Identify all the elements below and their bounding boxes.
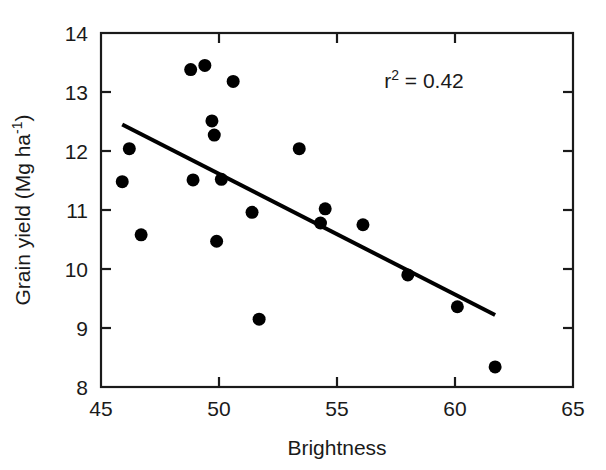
data-point [314, 216, 327, 229]
x-tick-label: 45 [89, 397, 112, 420]
data-point [227, 75, 240, 88]
data-point [187, 173, 200, 186]
x-tick-label: 65 [561, 397, 584, 420]
data-point [293, 142, 306, 155]
y-tick-labels: 891011121314 [65, 22, 89, 399]
data-point [116, 175, 129, 188]
y-tick-label: 13 [65, 81, 88, 104]
y-tick-label: 12 [65, 140, 88, 163]
x-axis-title: Brightness [287, 436, 386, 459]
y-tick-label: 9 [76, 317, 88, 340]
data-point [253, 313, 266, 326]
data-point [319, 202, 332, 215]
y-tick-label: 14 [65, 22, 89, 45]
data-point [210, 235, 223, 248]
data-point [489, 360, 502, 373]
data-point [205, 114, 218, 127]
data-point [208, 129, 221, 142]
y-axis-title: Grain yield (Mg ha-1) [9, 114, 34, 305]
data-point [246, 206, 259, 219]
x-tick-label: 50 [207, 397, 230, 420]
y-tick-label: 11 [66, 199, 88, 222]
x-tick-labels: 4550556065 [89, 397, 584, 420]
y-tick-label: 8 [76, 376, 88, 399]
data-point [401, 268, 414, 281]
data-point [356, 218, 369, 231]
y-tick-label: 10 [65, 258, 88, 281]
data-point [198, 59, 211, 72]
x-tick-label: 55 [325, 397, 348, 420]
data-point [135, 228, 148, 241]
x-tick-label: 60 [443, 397, 466, 420]
data-point [123, 142, 136, 155]
scatter-plot-figure: 4550556065 891011121314 r2 = 0.42 Bright… [0, 0, 606, 470]
chart-canvas: 4550556065 891011121314 r2 = 0.42 Bright… [0, 0, 606, 470]
data-point [451, 300, 464, 313]
plot-frame [101, 33, 573, 387]
data-point [215, 173, 228, 186]
data-point [184, 63, 197, 76]
